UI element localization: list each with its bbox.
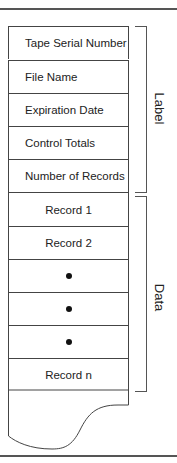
data-bracket (135, 196, 147, 392)
label-section-title: Label (152, 93, 167, 125)
bottom-rule (0, 455, 177, 457)
label-bracket (135, 26, 147, 193)
data-section-title: Data (152, 282, 167, 314)
tape-torn-end-shape (0, 0, 177, 463)
